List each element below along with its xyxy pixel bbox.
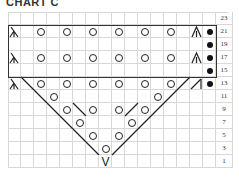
chart-cell (21, 116, 34, 129)
right-slant-decrease-icon (125, 103, 138, 116)
chart-cell (190, 12, 203, 25)
chart-cell (138, 155, 151, 168)
chart-cell (73, 142, 86, 155)
left-slant-decrease-icon (73, 103, 86, 116)
chart-cell (151, 155, 164, 168)
chart-cell (125, 90, 138, 103)
chart-cell (34, 129, 47, 142)
chart-cell (112, 155, 125, 168)
chart-cell (21, 142, 34, 155)
chart-cell (190, 129, 203, 142)
chart-cell (177, 116, 190, 129)
chart-cell (164, 129, 177, 142)
chart-cell (34, 142, 47, 155)
row-number: 13 (217, 77, 231, 90)
chart-cell (8, 12, 21, 25)
chart-cell (73, 12, 86, 25)
chart-cell (112, 90, 125, 103)
chart-cell (151, 77, 164, 90)
chart-cell (151, 129, 164, 142)
chart-cell (47, 77, 60, 90)
yarn-over-icon (34, 77, 47, 90)
chart-cell (190, 142, 203, 155)
chart-cell (34, 116, 47, 129)
row-number: 7 (217, 116, 231, 129)
chart-cell (73, 90, 86, 103)
yarn-over-icon (86, 103, 99, 116)
chart-cell (60, 12, 73, 25)
chart-cell (164, 103, 177, 116)
chart-cell (47, 12, 60, 25)
chart-cell (60, 142, 73, 155)
yarn-over-icon (112, 103, 125, 116)
row-number: 1 (217, 155, 231, 168)
chart-cell (151, 12, 164, 25)
chart-cell (203, 129, 216, 142)
yarn-over-icon (125, 116, 138, 129)
chart-cell (21, 155, 34, 168)
chart-cell (203, 103, 216, 116)
chart-cell (99, 129, 112, 142)
chart-cell (203, 12, 216, 25)
chart-cell (60, 129, 73, 142)
row-number: 5 (217, 129, 231, 142)
chart-cell (138, 142, 151, 155)
chart-cell (125, 155, 138, 168)
yarn-over-icon (138, 77, 151, 90)
chart-cell (203, 116, 216, 129)
right-slant-decrease-icon (112, 142, 125, 155)
chart-cell (190, 90, 203, 103)
chart-title: CHART C (6, 0, 59, 8)
yarn-over-icon (60, 103, 73, 116)
left-slant-decrease-icon (47, 103, 60, 116)
chart-cell (177, 129, 190, 142)
chart-cell (138, 129, 151, 142)
row-number: 3 (217, 142, 231, 155)
chart-cell (8, 142, 21, 155)
left-slant-decrease-icon (73, 129, 86, 142)
chart-cell (177, 12, 190, 25)
chart-cell (47, 129, 60, 142)
chart-cell (47, 155, 60, 168)
increase-v-icon: V (99, 155, 112, 168)
right-slant-decrease-icon (151, 103, 164, 116)
chart-cell (47, 116, 60, 129)
row-number: 15 (217, 64, 231, 77)
yarn-over-icon (86, 129, 99, 142)
chart-cell (73, 77, 86, 90)
row-number: 21 (217, 25, 231, 38)
chart-cell (203, 155, 216, 168)
yarn-over-icon (112, 129, 125, 142)
left-slant-decrease-icon (21, 77, 34, 90)
chart-cell (21, 129, 34, 142)
chart-cell (177, 103, 190, 116)
right-slant-decrease-icon (177, 77, 190, 90)
chart-cell (34, 12, 47, 25)
chart-cell (99, 77, 112, 90)
chart-cell (8, 103, 21, 116)
chart-cell (177, 90, 190, 103)
chart-cell (190, 155, 203, 168)
chart-cell (112, 116, 125, 129)
chart-cell (177, 155, 190, 168)
chart-cell (203, 142, 216, 155)
chart-cell (60, 90, 73, 103)
row-number: 9 (217, 103, 231, 116)
row-number: 11 (217, 90, 231, 103)
right-slant-decrease-icon (125, 129, 138, 142)
row-number: 17 (217, 51, 231, 64)
chart-cell (99, 116, 112, 129)
yarn-over-icon (73, 116, 86, 129)
chart-cell (164, 142, 177, 155)
left-slant-decrease-icon (86, 142, 99, 155)
yarn-over-icon (138, 103, 151, 116)
chart-cell (203, 90, 216, 103)
chart-cell (125, 12, 138, 25)
chart-cell (86, 12, 99, 25)
chart-cell (60, 155, 73, 168)
chart-cell (8, 116, 21, 129)
chart-cell (99, 12, 112, 25)
row-number: 23 (217, 12, 231, 25)
chart-cell (34, 103, 47, 116)
yarn-over-icon (60, 77, 73, 90)
